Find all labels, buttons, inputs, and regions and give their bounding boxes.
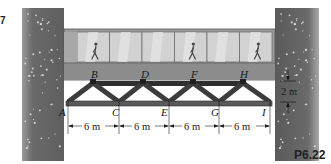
wall-speckle [35, 14, 37, 16]
wall-speckle [309, 134, 310, 135]
wall-speckle [278, 58, 280, 60]
wall-speckle [28, 80, 30, 82]
wall-speckle [303, 51, 304, 52]
wall-speckle [307, 62, 308, 63]
wall-speckle [285, 67, 287, 69]
wall-speckle [302, 30, 303, 31]
joint-label-i: I [261, 106, 267, 118]
walkway-end-panel [64, 32, 77, 62]
wall-speckle [289, 14, 291, 16]
wall-speckle [48, 30, 49, 31]
wall-speckle [294, 23, 296, 25]
wall-speckle [27, 138, 29, 140]
wall-speckle [28, 75, 30, 77]
wall-speckle [28, 141, 30, 143]
wall-speckle [283, 35, 284, 36]
wall-speckle [309, 35, 310, 36]
wall-speckle [41, 137, 43, 139]
wall-speckle [39, 109, 41, 111]
wall-speckle [277, 63, 279, 65]
top-chord [93, 81, 243, 86]
joint-label-h: H [239, 68, 249, 80]
wall-speckle [25, 58, 27, 60]
wall-speckle [49, 51, 50, 52]
wall-speckle [60, 75, 61, 76]
wall-speckle [33, 119, 34, 120]
dimension-label-ac: 6 m [84, 121, 100, 132]
joint-label-g: G [211, 106, 219, 118]
wall-speckle [286, 53, 288, 55]
wall-speckle [294, 65, 296, 67]
wall-speckle [39, 51, 41, 53]
wall-speckle [283, 113, 285, 115]
wall-speckle [294, 137, 296, 139]
wall-speckle [32, 53, 34, 55]
wall-speckle [287, 122, 289, 124]
wall-speckle [296, 74, 298, 76]
wall-speckle [48, 21, 50, 23]
wall-speckle [50, 49, 52, 51]
wall-speckle [305, 59, 307, 61]
wall-speckle [296, 20, 297, 21]
wall-speckle [57, 87, 59, 89]
wall-speckle [305, 104, 306, 105]
wall-speckle [281, 20, 282, 21]
dimension-label-eg: 6 m [184, 121, 200, 132]
wall-speckle [312, 49, 313, 50]
wall-speckle [313, 58, 315, 60]
dimension-label-ce: 6 m [134, 121, 150, 132]
left-wall [22, 8, 64, 161]
wall-speckle [278, 121, 280, 123]
diagonal-member [68, 83, 93, 102]
wall-speckle [27, 20, 28, 21]
wall-speckle [300, 69, 302, 71]
wall-speckle [31, 71, 33, 73]
wall-speckle [280, 13, 282, 15]
wall-speckle [37, 21, 39, 23]
pedestrian-head [192, 42, 195, 45]
wall-speckle [302, 21, 304, 23]
wall-speckle [294, 74, 295, 75]
wall-speckle [29, 35, 30, 36]
joint-label-a: A [58, 106, 66, 118]
wall-speckle [280, 146, 281, 147]
wall-speckle [42, 92, 43, 93]
wall-speckle [50, 59, 52, 61]
wall-speckle [284, 71, 286, 73]
wall-speckle [299, 82, 300, 83]
wall-speckle [296, 18, 297, 19]
truss [66, 79, 272, 106]
figure-number-fragment: 7 [0, 15, 6, 26]
wall-speckle [41, 28, 43, 30]
wall-speckle [30, 113, 32, 115]
wall-speckle [42, 20, 43, 21]
wall-speckle [305, 49, 307, 51]
wall-speckle [27, 146, 28, 147]
wall-speckle [34, 122, 36, 124]
wall-speckle [27, 13, 29, 15]
wall-speckle [295, 28, 297, 30]
wall-speckle [57, 49, 58, 50]
wall-speckle [44, 59, 45, 60]
joint-label-e: E [160, 106, 168, 118]
wall-speckle [24, 121, 26, 123]
wall-speckle [46, 69, 48, 71]
wall-speckle [298, 59, 299, 60]
wall-speckle [54, 35, 55, 36]
wall-speckle [286, 119, 287, 120]
problem-number: P6.22 [294, 148, 326, 162]
right-wall [275, 8, 319, 161]
diagonal-member [243, 83, 270, 102]
wall-speckle [45, 82, 46, 83]
wall-speckle [41, 74, 42, 75]
truss-bridge-figure: 7 B D F H A C E G I [0, 0, 331, 164]
wall-speckle [40, 23, 42, 25]
joint-label-b: B [91, 68, 98, 80]
wall-speckle [279, 147, 281, 149]
wall-speckle [32, 67, 34, 69]
wall-speckle [302, 137, 303, 138]
wall-speckle [280, 138, 282, 140]
dimension-label-gi: 6 m [234, 121, 250, 132]
joint-label-f: F [190, 68, 198, 80]
wall-speckle [42, 18, 43, 19]
